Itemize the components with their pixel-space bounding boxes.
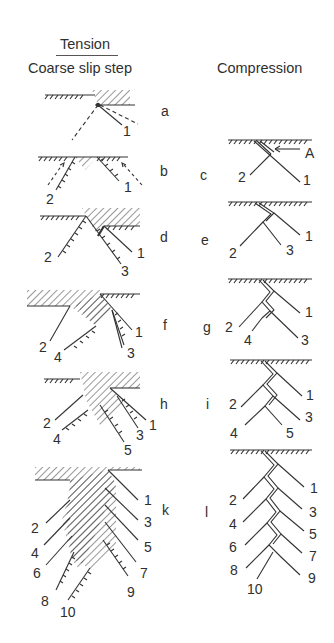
label-l-8: 8 (230, 563, 238, 577)
label-g-3: 3 (301, 333, 309, 347)
label-h-3: 3 (136, 428, 144, 442)
label-g-4: 4 (244, 333, 252, 347)
label-f-3: 3 (127, 346, 135, 360)
label-i-3: 3 (305, 410, 313, 424)
label-d-1: 1 (137, 246, 145, 260)
label-k-6: 6 (33, 566, 41, 580)
label-k-2: 2 (31, 521, 39, 535)
label-l-2: 2 (229, 493, 237, 507)
label-i-4: 4 (230, 426, 238, 440)
label-b-2: 2 (46, 192, 54, 206)
label-d-3: 3 (121, 264, 129, 278)
label-k-1: 1 (144, 493, 152, 507)
label-l-3: 3 (309, 505, 317, 519)
label-f-1: 1 (135, 325, 143, 339)
panel-k-drawing (35, 467, 142, 600)
panel-g-drawing (228, 279, 312, 338)
label-l-4: 4 (229, 517, 237, 531)
label-b-1: 1 (124, 180, 132, 194)
label-e-1: 1 (305, 229, 313, 243)
label-l-10: 10 (247, 582, 263, 596)
label-f-2: 2 (39, 340, 47, 354)
label-d-2: 2 (44, 250, 52, 264)
label-c-A: A (305, 146, 314, 160)
label-h-1: 1 (149, 418, 157, 432)
label-e-2: 2 (229, 246, 237, 260)
label-h-2: 2 (43, 416, 51, 430)
label-k-7: 7 (140, 566, 148, 580)
label-k-9: 9 (127, 585, 135, 599)
label-g-1: 1 (305, 305, 313, 319)
label-i-5: 5 (286, 426, 294, 440)
label-k-4: 4 (31, 546, 39, 560)
label-l-7: 7 (309, 549, 317, 563)
label-f-4: 4 (54, 350, 62, 364)
label-g-2: 2 (225, 320, 233, 334)
panel-d-drawing (40, 208, 140, 264)
label-c-2: 2 (238, 170, 246, 184)
panel-e-drawing (228, 202, 312, 246)
label-c-1: 1 (303, 173, 311, 187)
label-l-9: 9 (308, 571, 316, 585)
label-a-1: 1 (123, 124, 131, 138)
label-k-8: 8 (41, 594, 49, 608)
label-h-5: 5 (124, 443, 132, 457)
label-i-2: 2 (229, 397, 237, 411)
slip-step-diagram (0, 0, 334, 643)
label-k-10: 10 (60, 605, 76, 619)
label-k-3: 3 (144, 515, 152, 529)
label-l-1: 1 (310, 481, 318, 495)
label-i-1: 1 (306, 388, 314, 402)
label-l-6: 6 (229, 540, 237, 554)
panel-i-drawing (230, 360, 312, 425)
panel-l-drawing (230, 450, 312, 579)
label-k-5: 5 (144, 540, 152, 554)
label-e-3: 3 (286, 243, 294, 257)
label-h-4: 4 (53, 432, 61, 446)
label-l-5: 5 (309, 527, 317, 541)
